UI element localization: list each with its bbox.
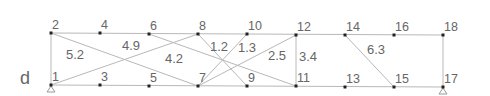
node-label-18: 18: [444, 21, 458, 34]
node-label-11: 11: [297, 72, 310, 85]
node-label-3: 3: [101, 71, 108, 84]
member-value-label: 6.3: [367, 43, 385, 56]
node-label-2: 2: [52, 19, 59, 32]
member-value-label: 1.2: [210, 40, 228, 53]
member-value-label: 2.5: [268, 49, 286, 62]
node-label-16: 16: [395, 21, 409, 34]
node-label-8: 8: [199, 20, 206, 33]
node-label-15: 15: [395, 73, 409, 86]
pin-support-icon: [47, 86, 55, 92]
member-value-label: 4.2: [165, 52, 183, 65]
member-value-label: 4.9: [122, 39, 140, 52]
member-value-label: 5.2: [66, 48, 84, 61]
node-label-9: 9: [248, 72, 255, 85]
figure-label: d: [20, 69, 30, 87]
node-label-4: 4: [101, 19, 108, 32]
member-value-label: 1.3: [238, 41, 256, 54]
member-value-label: 3.4: [299, 50, 317, 63]
node-label-14: 14: [346, 21, 360, 34]
node-label-13: 13: [346, 73, 360, 86]
node-label-17: 17: [444, 73, 458, 86]
node-label-10: 10: [248, 20, 262, 33]
node-label-7: 7: [199, 72, 206, 85]
node-label-1: 1: [52, 71, 59, 84]
node-label-5: 5: [150, 72, 157, 85]
node-label-12: 12: [297, 21, 311, 34]
node-label-6: 6: [150, 20, 157, 33]
pin-support-icon: [439, 88, 447, 94]
